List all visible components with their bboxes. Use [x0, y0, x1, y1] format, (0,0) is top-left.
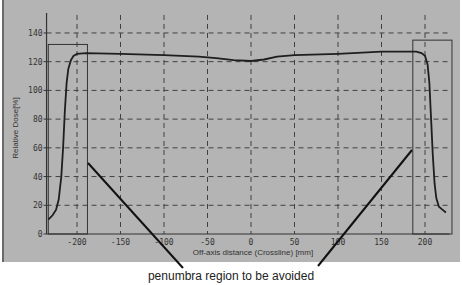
x-tick-label: 200	[418, 238, 433, 247]
y-tick-label: 140	[28, 29, 43, 38]
y-tick-label: 40	[33, 173, 43, 182]
y-tick-label: 100	[28, 86, 43, 95]
x-tick-label: 150	[374, 238, 389, 247]
y-tick-label: 0	[38, 230, 43, 239]
y-tick-label: 20	[33, 201, 43, 210]
y-tick-label: 60	[33, 144, 43, 153]
y-axis-label: Relative Dose[%]	[11, 97, 20, 158]
gridlines	[47, 15, 450, 234]
y-tick-label: 80	[33, 115, 43, 124]
axes	[44, 13, 450, 234]
x-tick-label: -150	[111, 238, 130, 247]
x-tick-label: -200	[67, 238, 86, 247]
y-tick-label: 120	[28, 58, 43, 67]
x-tick-label: -50	[200, 238, 215, 247]
penumbra-annotation: penumbra region to be avoided	[0, 269, 462, 283]
x-tick-label: 0	[249, 238, 254, 247]
dose-profile-chart: 020406080100120140-200-150-100-500501001…	[0, 0, 462, 285]
dose-curve	[48, 52, 446, 220]
x-axis-label: Off-axis distance (Crossline) [mm]	[193, 248, 313, 257]
x-tick-label: 50	[290, 238, 300, 247]
